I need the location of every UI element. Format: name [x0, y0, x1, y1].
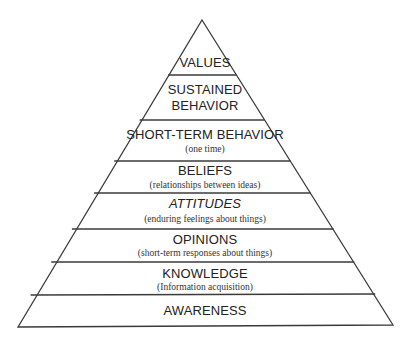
level-short-term-behavior-subtitle: (one time) [0, 144, 410, 155]
level-knowledge-subtitle: (Information acquisition) [0, 282, 410, 293]
level-awareness-title: AWARENESS [0, 303, 410, 318]
divider-7 [31, 294, 376, 295]
level-values-title: VALUES [0, 55, 410, 70]
level-opinions-subtitle: (short-term responses about things) [0, 248, 410, 259]
level-short-term-behavior-title: SHORT-TERM BEHAVIOR [0, 127, 410, 142]
level-attitudes-subtitle: (enduring feelings about things) [0, 214, 410, 225]
level-sustained-behavior-title-line1: SUSTAINED [0, 82, 410, 97]
level-beliefs-subtitle: (relationships between ideas) [0, 180, 410, 191]
level-knowledge-title: KNOWLEDGE [0, 266, 410, 281]
level-beliefs-title: BELIEFS [0, 163, 410, 178]
level-opinions-title: OPINIONS [0, 232, 410, 247]
level-sustained-behavior-title-line2: BEHAVIOR [0, 98, 410, 113]
level-attitudes-title: ATTITUDES [0, 196, 410, 211]
